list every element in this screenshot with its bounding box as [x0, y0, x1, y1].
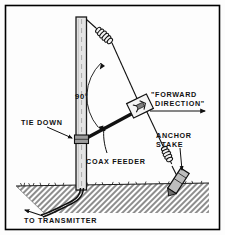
angle-arc — [87, 63, 101, 127]
tie-down-leader — [47, 127, 72, 138]
angle-label: 90° — [75, 92, 89, 101]
diagram-canvas: 90° — [0, 0, 225, 235]
mast — [76, 17, 87, 190]
anchor-stake-label-line2: STAKE — [156, 140, 183, 149]
to-transmitter-label: TO TRANSMITTER — [24, 216, 97, 225]
antenna-wire-upper-run — [112, 43, 139, 103]
coax-feeder-leader — [104, 127, 107, 153]
antenna-wire-top-segment — [87, 20, 97, 29]
anchor-stake-leader — [180, 148, 182, 170]
coax-feeder-label: COAX FEEDER — [86, 157, 146, 166]
forward-direction-label-line2: DIRECTION" — [155, 99, 205, 108]
antenna-installation-figure: 90° — [0, 0, 225, 235]
upper-insulator-icon — [93, 25, 115, 46]
forward-direction-label-line1: "FORWARD — [151, 90, 197, 99]
anchor-stake-label-line1: ANCHOR — [156, 131, 192, 140]
tie-down-label: TIE DOWN — [21, 118, 63, 127]
tie-down-clamp — [75, 135, 89, 144]
